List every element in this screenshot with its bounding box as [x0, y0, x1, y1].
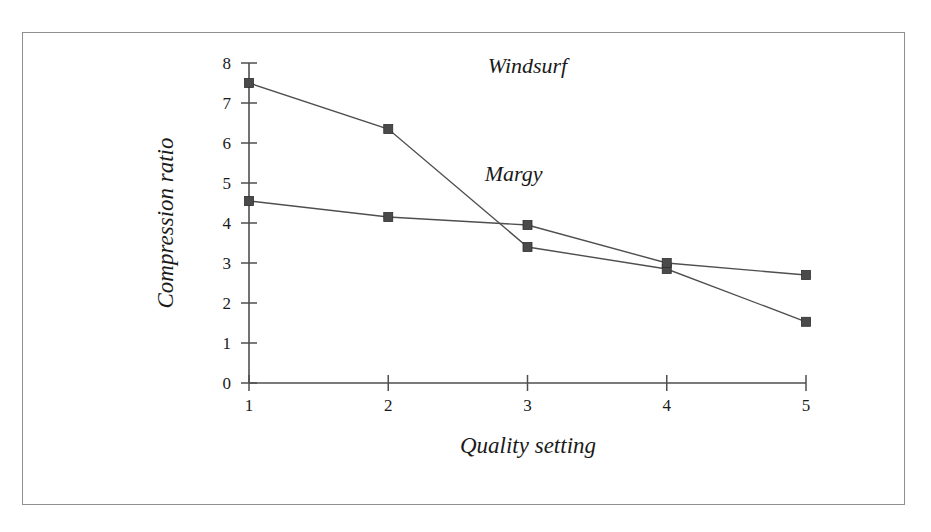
y-axis-tick-label: 2: [223, 294, 232, 313]
x-axis-tick-labels: 12345: [245, 396, 811, 415]
figure-frame: 012345678 12345 WindsurfMargy Compressio…: [22, 32, 905, 505]
x-axis-tick-label: 1: [245, 396, 254, 415]
y-axis-tick-label: 1: [223, 334, 232, 353]
y-axis-title: Compression ratio: [153, 137, 178, 308]
data-point-marker: [662, 259, 671, 268]
data-point-marker: [523, 221, 532, 230]
data-point-marker: [384, 125, 393, 134]
y-axis-tick-label: 8: [223, 54, 232, 73]
line-chart: 012345678 12345 WindsurfMargy Compressio…: [23, 33, 906, 506]
y-axis-tick-label: 5: [223, 174, 232, 193]
data-point-marker: [384, 213, 393, 222]
series-label-margy: Margy: [484, 161, 543, 186]
y-axis-tick-label: 6: [223, 134, 232, 153]
series-line-margy: [249, 201, 806, 275]
x-axis-tick-label: 4: [663, 396, 672, 415]
y-axis-tick-label: 4: [223, 214, 232, 233]
data-point-marker: [802, 271, 811, 280]
x-axis-tick-label: 2: [384, 396, 393, 415]
y-axis-tick-label: 7: [223, 94, 232, 113]
y-axis-tick-label: 3: [223, 254, 232, 273]
series-line-windsurf: [249, 83, 806, 322]
data-point-marker: [802, 317, 811, 326]
data-point-marker: [245, 79, 254, 88]
x-axis-tick-label: 5: [802, 396, 811, 415]
series-markers: [245, 79, 811, 327]
y-axis-tick-labels: 012345678: [223, 54, 232, 393]
series-lines: [249, 83, 806, 322]
x-axis-tick-label: 3: [523, 396, 532, 415]
x-axis-title: Quality setting: [460, 433, 596, 458]
y-axis-tick-label: 0: [223, 374, 232, 393]
series-annotations: WindsurfMargy: [484, 53, 570, 186]
data-point-marker: [245, 197, 254, 206]
data-point-marker: [523, 243, 532, 252]
series-label-windsurf: Windsurf: [488, 53, 570, 78]
